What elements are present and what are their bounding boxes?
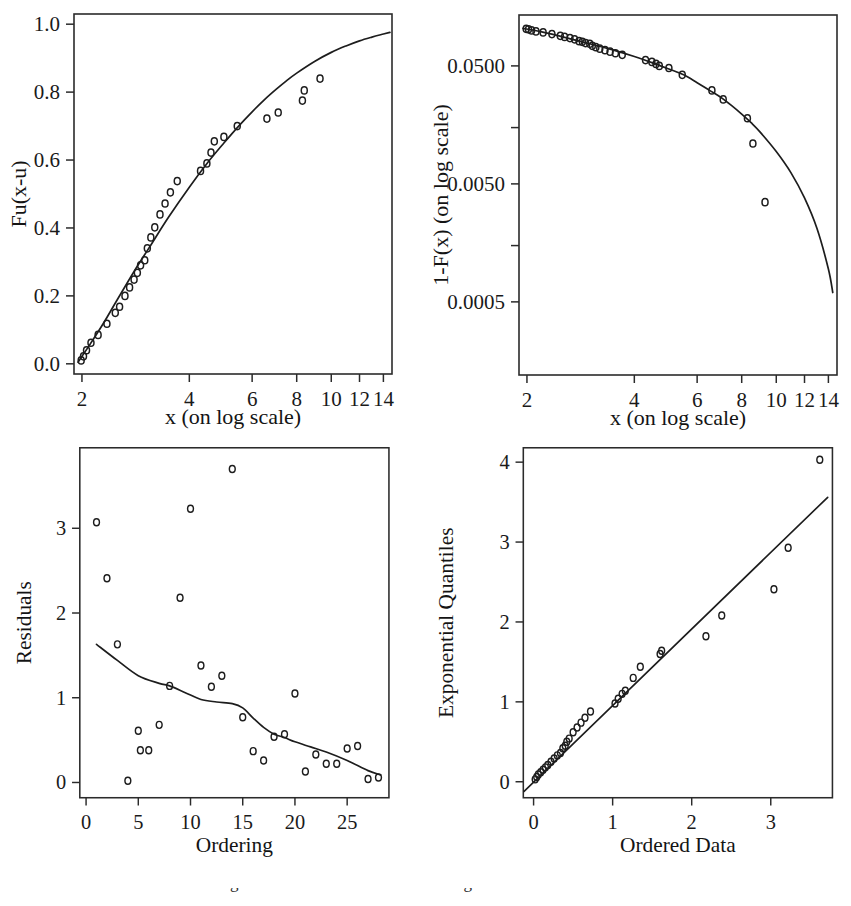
y-tick-label: 0.6 (34, 148, 60, 172)
data-point (582, 714, 588, 721)
tail-survival-plot: 24681012140.05000.00500.0005x (on log sc… (426, 0, 851, 453)
y-tick-label: 1.0 (34, 12, 60, 36)
residuals-svg: 05101520250123OrderingResiduals (0, 440, 425, 893)
data-point (219, 672, 225, 679)
data-point (323, 760, 329, 767)
data-point (771, 586, 777, 593)
data-point (817, 456, 823, 463)
x-tick-label: 0 (528, 811, 538, 833)
x-tick-label: 15 (233, 811, 253, 833)
fitted-curve (524, 497, 828, 791)
x-tick-label: 2 (522, 388, 533, 412)
data-point (261, 757, 267, 764)
figure-caption-strip: Fitted generalized Pareto distribution d… (0, 888, 851, 906)
data-point (630, 674, 636, 681)
y-tick-label: 0.0005 (447, 290, 505, 314)
x-tick-label: 3 (766, 811, 776, 833)
y-tick-label: 1 (499, 691, 509, 713)
data-points (94, 465, 382, 784)
x-tick-label: 2 (77, 387, 88, 411)
x-tick-label: 1 (608, 811, 618, 833)
y-tick-label: 0.0 (34, 352, 60, 376)
data-point (152, 224, 158, 231)
data-point (148, 234, 154, 241)
data-point (301, 87, 307, 94)
data-points (523, 25, 768, 205)
distribution-fit-svg: 24681012140.00.20.40.60.81.0x (on log sc… (0, 0, 425, 453)
data-point (240, 714, 246, 721)
qq-svg: 012301234Ordered DataExponential Quantil… (426, 440, 851, 893)
x-tick-label: 10 (180, 811, 200, 833)
residuals-plot: 05101520250123OrderingResiduals (0, 440, 425, 893)
data-point (122, 292, 128, 299)
x-tick-label: 14 (373, 387, 395, 411)
data-point (174, 177, 180, 184)
y-tick-label: 0.8 (34, 80, 60, 104)
fitted-curve (78, 32, 390, 362)
y-tick-label: 0.2 (34, 284, 60, 308)
data-point (719, 612, 725, 619)
data-point (114, 641, 120, 648)
figure-grid: 24681012140.00.20.40.60.81.0x (on log sc… (0, 0, 851, 906)
data-point (104, 575, 110, 582)
y-tick-label: 0.4 (34, 216, 61, 240)
data-point (117, 303, 123, 310)
y-tick-label: 1 (56, 687, 66, 709)
x-tick-label: 0 (81, 811, 91, 833)
plot-frame (523, 448, 832, 798)
y-tick-label: 2 (499, 611, 509, 633)
y-tick-label: 3 (56, 517, 66, 539)
x-axis-title: Ordering (196, 833, 273, 857)
x-tick-label: 20 (285, 811, 305, 833)
distribution-fit-plot: 24681012140.00.20.40.60.81.0x (on log sc… (0, 0, 425, 453)
data-point (229, 465, 235, 472)
data-point (211, 138, 217, 145)
y-tick-label: 0.0050 (447, 172, 505, 196)
y-tick-label: 0 (56, 771, 66, 793)
x-tick-label: 5 (133, 811, 143, 833)
plot-frame (74, 14, 392, 374)
data-point (588, 708, 594, 715)
data-point (198, 662, 204, 669)
data-point (365, 776, 371, 783)
data-point (157, 211, 163, 218)
data-points (78, 75, 323, 364)
x-tick-label: 12 (349, 387, 370, 411)
x-tick-label: 25 (337, 811, 357, 833)
data-point (146, 747, 152, 754)
data-point (637, 663, 643, 670)
fitted-curve (97, 644, 381, 774)
y-axis-title: 1-F(x) (on log scale) (428, 104, 453, 285)
data-points (532, 456, 822, 783)
data-point (162, 200, 168, 207)
y-axis-title: Residuals (12, 581, 36, 664)
data-point (317, 75, 323, 82)
x-axis-title: x (on log scale) (165, 404, 301, 429)
plot-frame (519, 15, 837, 375)
x-tick-label: 2 (687, 811, 697, 833)
x-tick-label: 10 (766, 388, 787, 412)
x-tick-label: 12 (794, 388, 815, 412)
data-point (188, 505, 194, 512)
y-tick-label: 2 (56, 602, 66, 624)
plot-frame (80, 448, 389, 798)
y-axis-title: Fu(x-u) (6, 160, 31, 227)
x-tick-label: 14 (818, 388, 840, 412)
data-point (167, 189, 173, 196)
data-point (703, 633, 709, 640)
data-point (762, 199, 768, 206)
data-point (208, 683, 214, 690)
qq-plot: 012301234Ordered DataExponential Quantil… (426, 440, 851, 893)
data-point (785, 544, 791, 551)
data-point (94, 519, 100, 526)
tail-survival-svg: 24681012140.05000.00500.0005x (on log sc… (426, 0, 851, 453)
data-point (275, 109, 281, 116)
data-point (299, 97, 305, 104)
data-point (334, 760, 340, 767)
data-point (137, 747, 143, 754)
data-point (313, 751, 319, 758)
data-point (355, 743, 361, 750)
data-point (250, 748, 256, 755)
data-point (750, 140, 756, 147)
y-tick-label: 0.0500 (447, 54, 505, 78)
